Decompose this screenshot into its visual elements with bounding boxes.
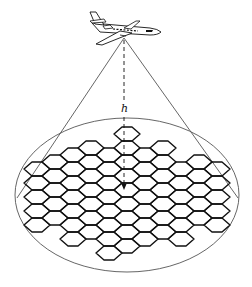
hex-cell [78, 211, 104, 225]
sensor-footprint-diagram [0, 0, 252, 287]
hex-cell [186, 155, 212, 169]
hex-cell [96, 176, 122, 190]
hex-cell [114, 141, 140, 155]
hex-cell [132, 190, 158, 204]
hex-cell [78, 155, 104, 169]
hex-cell [114, 183, 140, 197]
altitude-line [122, 40, 127, 190]
hex-cell [186, 183, 212, 197]
hex-cell [42, 183, 68, 197]
hex-cell [114, 239, 140, 253]
hex-cell [168, 218, 194, 232]
hexagonal-cell-grid [24, 127, 230, 260]
hex-cell [114, 155, 140, 169]
hex-cell [60, 218, 86, 232]
hex-cell [24, 176, 50, 190]
hex-cell [78, 197, 104, 211]
hex-cell [204, 204, 230, 218]
hex-cell [24, 162, 50, 176]
hex-cell [60, 176, 86, 190]
hex-cell [168, 232, 194, 246]
hex-cell [168, 190, 194, 204]
hex-cell [186, 197, 212, 211]
hex-cell [150, 225, 176, 239]
hex-cell [60, 148, 86, 162]
hex-cell [204, 218, 230, 232]
hex-cell [60, 232, 86, 246]
hex-cell [96, 162, 122, 176]
hex-cell [132, 162, 158, 176]
hex-cell [42, 169, 68, 183]
hex-cell [96, 232, 122, 246]
hex-cell [132, 176, 158, 190]
hex-cell [132, 148, 158, 162]
hex-cell [78, 225, 104, 239]
hex-cell [24, 218, 50, 232]
hex-cell [168, 162, 194, 176]
hex-cell [96, 148, 122, 162]
hex-cell [150, 183, 176, 197]
altitude-label: h [120, 103, 129, 114]
hex-cell [96, 204, 122, 218]
hex-cell [150, 197, 176, 211]
hex-cell [114, 211, 140, 225]
hex-cell [114, 127, 140, 141]
hex-cell [42, 155, 68, 169]
hex-cell [96, 218, 122, 232]
hex-cell [132, 232, 158, 246]
hex-cell [42, 197, 68, 211]
hex-cell [60, 204, 86, 218]
hex-cell [114, 169, 140, 183]
hex-cell [132, 218, 158, 232]
hex-cell [60, 162, 86, 176]
hex-cell [186, 169, 212, 183]
hex-cell [204, 190, 230, 204]
figure-canvas: h [0, 0, 252, 287]
hex-cell [114, 225, 140, 239]
hex-cell [78, 183, 104, 197]
hex-cell [24, 204, 50, 218]
hex-cell [150, 141, 176, 155]
hex-cell [24, 190, 50, 204]
hex-cell [150, 211, 176, 225]
hex-cell [150, 155, 176, 169]
hex-cell [78, 141, 104, 155]
hex-cell [96, 190, 122, 204]
hex-cell [60, 190, 86, 204]
hex-cell [78, 169, 104, 183]
hex-cell [186, 211, 212, 225]
hex-cell [168, 176, 194, 190]
hex-cell [204, 176, 230, 190]
hex-cell [42, 211, 68, 225]
hex-cell [114, 197, 140, 211]
hex-cell [132, 204, 158, 218]
hex-cell [96, 246, 122, 260]
hex-cell [168, 204, 194, 218]
hex-cell [150, 169, 176, 183]
